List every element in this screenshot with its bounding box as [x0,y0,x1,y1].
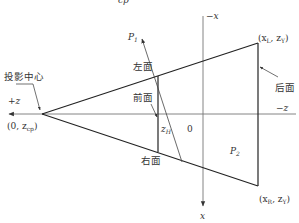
frustum-diagram: cp 投影中心 +z (0, zcp) 左面 前面 右面 后面 P1 P2 zH… [0,0,299,223]
minus-x-label: −x [206,11,219,21]
left-face-edge [42,43,258,114]
minus-z-label: −z [276,103,289,113]
right-corner-label: (xR, zY) [259,194,290,205]
left-face-label: 左面 [133,61,153,72]
p1-label: P1 [127,32,138,43]
x-label: x [200,211,205,221]
back-face-pointer [260,67,278,77]
front-face-label: 前面 [133,92,153,103]
p2-label: P2 [229,146,240,157]
right-face-label: 右面 [141,155,161,166]
origin-label: 0 [187,124,193,134]
projection-center-label: 投影中心 [4,71,44,82]
front-face-pointer [151,104,157,117]
plus-z-label: +z [8,96,21,106]
projection-point-label: (0, zcp) [7,121,37,133]
back-face-label: 后面 [275,82,295,93]
top-cropped-text: cp [118,0,129,5]
left-corner-label: (xL, zY) [258,33,289,44]
right-face-edge [42,114,258,186]
